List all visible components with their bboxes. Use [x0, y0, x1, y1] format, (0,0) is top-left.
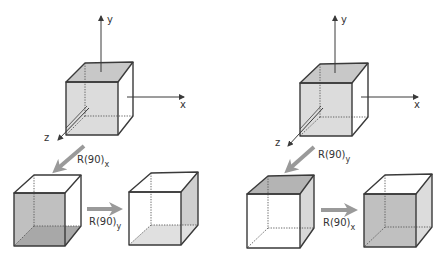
left-original-cube: y x z	[44, 14, 186, 143]
rotation-arrow-step1	[288, 147, 314, 170]
rotation-diagram: y x z R(90)x R(90)y	[0, 0, 443, 260]
right-original-cube: y x z	[275, 14, 420, 148]
y-axis-label: y	[341, 14, 347, 25]
rotation-label-step2: R(90)x	[323, 217, 355, 232]
right-step1-cube	[247, 175, 314, 248]
rotation-label-step1: R(90)x	[77, 154, 109, 169]
z-axis-label: z	[275, 137, 280, 148]
y-axis-label: y	[107, 14, 113, 25]
right-step2-cube	[364, 174, 432, 247]
rotation-label-step1: R(90)y	[318, 149, 350, 164]
x-axis-label: x	[414, 99, 420, 110]
left-sequence: y x z R(90)x R(90)y	[14, 14, 198, 246]
left-step1-cube	[14, 175, 81, 246]
z-axis-label: z	[44, 132, 49, 143]
rotation-label-step2: R(90)y	[89, 216, 121, 231]
x-axis-label: x	[180, 99, 186, 110]
left-step2-cube	[129, 172, 198, 245]
right-sequence: y x z R(90)y R(90)x	[247, 14, 432, 248]
